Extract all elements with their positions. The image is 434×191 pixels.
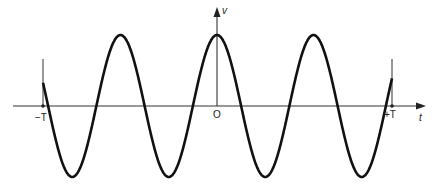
t-axis-label: t [419, 112, 423, 123]
t-axis-arrow-icon [416, 103, 426, 110]
v-axis-label: v [222, 5, 228, 16]
pos-T-label: +T [384, 109, 396, 120]
waveform-diagram: −T O +T t v [0, 0, 434, 191]
origin-label: O [213, 109, 221, 120]
neg-T-label: −T [35, 112, 47, 123]
v-axis-arrow-icon [214, 7, 221, 17]
